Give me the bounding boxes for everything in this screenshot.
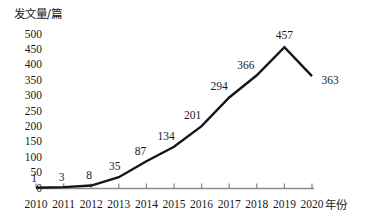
plot-area <box>0 0 369 221</box>
publication-count-line-chart: 发文量/篇 年份 500450400350300250200150100500 … <box>0 0 369 221</box>
data-series-line <box>36 47 312 187</box>
